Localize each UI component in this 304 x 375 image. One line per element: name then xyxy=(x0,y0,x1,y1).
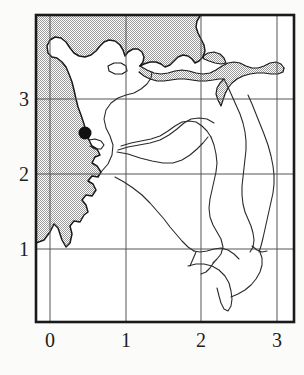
map-canvas xyxy=(0,0,304,375)
site-marker-icon xyxy=(79,127,92,140)
x-tick-label-3: 3 xyxy=(272,330,282,350)
x-tick-label-1: 1 xyxy=(121,330,131,350)
x-tick-label-0: 0 xyxy=(45,330,55,350)
map-figure: 0 1 2 3 3 2 1 xyxy=(0,0,304,375)
y-tick-label-2: 2 xyxy=(19,164,29,184)
coastline-islet xyxy=(108,63,127,74)
x-tick-label-2: 2 xyxy=(196,330,206,350)
y-tick-label-1: 1 xyxy=(19,239,29,259)
y-tick-label-3: 3 xyxy=(19,89,29,109)
